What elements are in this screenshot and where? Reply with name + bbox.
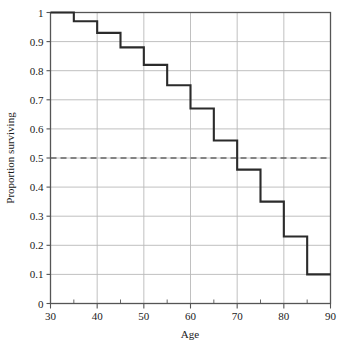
y-tick-label: 0.3 (30, 210, 44, 222)
x-tick-label: 80 (278, 310, 290, 322)
x-tick-label: 30 (45, 310, 57, 322)
x-tick-label: 40 (92, 310, 104, 322)
y-axis-title: Proportion surviving (4, 112, 16, 204)
y-tick-label: 0.9 (30, 36, 44, 48)
y-tick-label: 0.6 (30, 123, 44, 135)
y-tick-label: 0.8 (30, 65, 44, 77)
y-tick-label: 0 (38, 298, 44, 310)
x-tick-label: 50 (138, 310, 150, 322)
chart-canvas: 30405060708090 00.10.20.30.40.50.60.70.8… (0, 0, 348, 346)
x-tick-label: 60 (185, 310, 197, 322)
y-tick-label: 0.2 (30, 239, 44, 251)
x-tick-label: 90 (325, 310, 337, 322)
y-tick-label: 1 (38, 7, 44, 19)
survival-curve-figure: 30405060708090 00.10.20.30.40.50.60.70.8… (0, 0, 348, 346)
x-axis-title: Age (181, 328, 199, 340)
x-tick-label: 70 (232, 310, 244, 322)
chart-background (0, 0, 348, 346)
y-tick-label: 0.7 (30, 94, 44, 106)
y-tick-label: 0.1 (30, 268, 44, 280)
y-tick-label: 0.4 (30, 181, 44, 193)
y-tick-label: 0.5 (30, 152, 44, 164)
